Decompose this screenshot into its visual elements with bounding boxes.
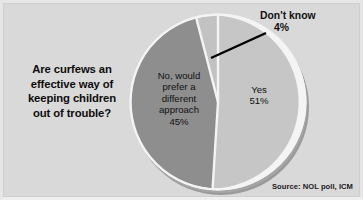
- slice-label-no-line-3: different: [142, 93, 216, 104]
- slice-label-yes-value: 51%: [228, 95, 290, 106]
- slice-label-dontknow: Don't know 4%: [254, 10, 358, 35]
- chart-question-title: Are curfews an effective way of keeping …: [4, 62, 140, 120]
- title-line-2: effective way of: [4, 77, 140, 92]
- slice-label-no-line-4: approach: [142, 104, 216, 115]
- title-line-4: out of trouble?: [4, 106, 140, 121]
- slice-label-no-line-2: prefer a: [142, 81, 216, 92]
- source-note: Source: NOL poll, ICM: [272, 182, 353, 191]
- slice-label-dontknow-name: Don't know: [254, 10, 358, 22]
- slice-label-yes: Yes 51%: [228, 84, 290, 107]
- title-line-1: Are curfews an: [4, 62, 140, 77]
- pie-chart-infographic: Are curfews an effective way of keeping …: [0, 0, 363, 200]
- slice-label-yes-name: Yes: [228, 84, 290, 95]
- title-line-3: keeping children: [4, 91, 140, 106]
- slice-label-no: No, would prefer a different approach 45…: [142, 70, 216, 127]
- slice-label-no-line-1: No, would: [142, 70, 216, 81]
- slice-label-no-value: 45%: [142, 116, 216, 127]
- slice-label-dontknow-value: 4%: [254, 22, 358, 34]
